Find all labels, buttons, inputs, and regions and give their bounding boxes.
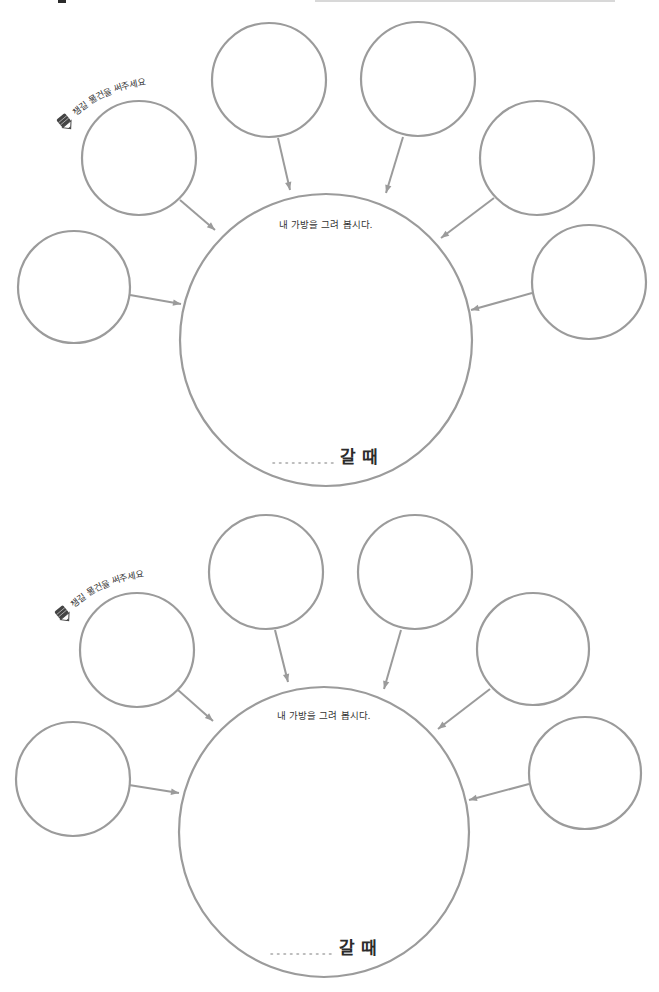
- item-top-left-arrow-line: [278, 138, 290, 190]
- arrow-head-icon: [171, 789, 179, 795]
- item-right-circle[interactable]: [529, 717, 641, 829]
- item-right-arrow-line: [471, 293, 532, 310]
- worksheet-canvas: 내 가방을 그려 봅시다.갈 때챙길 물건을 써주세요 내 가방을 그려 봅시다…: [0, 0, 659, 992]
- item-right-group: [469, 717, 641, 829]
- item-left-circle[interactable]: [16, 722, 130, 836]
- arrow-head-icon: [469, 795, 478, 801]
- item-top-right-circle[interactable]: [358, 515, 472, 629]
- arrow-head-icon: [385, 184, 391, 193]
- center-prompt: 내 가방을 그려 봅시다.: [279, 219, 372, 230]
- arrow-head-icon: [173, 299, 181, 305]
- cutoff-header-text: [315, 0, 615, 2]
- item-top-left-circle[interactable]: [209, 515, 323, 629]
- item-upper-right-circle[interactable]: [480, 101, 594, 215]
- item-upper-left-group: [80, 593, 213, 721]
- item-top-right-group: [361, 22, 475, 193]
- cutoff-header-mark: [58, 0, 66, 3]
- item-top-left-group: [209, 515, 323, 682]
- item-top-right-arrow-line: [386, 137, 403, 193]
- arrow-head-icon: [383, 680, 389, 689]
- item-upper-left-group: [82, 101, 215, 230]
- item-upper-right-arrow-line: [438, 689, 490, 729]
- bag-drawing-circle[interactable]: [180, 194, 472, 486]
- item-left-circle[interactable]: [18, 231, 130, 343]
- pencil-icon: [54, 605, 73, 624]
- item-right-arrow-line: [469, 784, 529, 800]
- item-top-right-circle[interactable]: [361, 22, 475, 136]
- item-upper-right-circle[interactable]: [477, 593, 589, 705]
- bag-drawing-circle[interactable]: [179, 687, 469, 977]
- item-upper-right-arrow-line: [441, 198, 494, 238]
- item-left-group: [18, 231, 181, 343]
- item-upper-right-group: [438, 593, 589, 729]
- item-top-left-arrow-line: [275, 630, 288, 682]
- item-top-left-group: [212, 23, 326, 190]
- item-upper-left-circle[interactable]: [80, 593, 194, 707]
- blank-suffix: 갈 때: [339, 938, 377, 958]
- worksheet-top: 내 가방을 그려 봅시다.갈 때챙길 물건을 써주세요: [18, 22, 646, 486]
- item-top-left-circle[interactable]: [212, 23, 326, 137]
- item-upper-left-circle[interactable]: [82, 101, 196, 215]
- item-upper-right-group: [441, 101, 594, 238]
- item-top-right-arrow-line: [384, 630, 401, 689]
- worksheet-bottom: 내 가방을 그려 봅시다.갈 때챙길 물건을 써주세요: [16, 515, 641, 977]
- item-right-circle[interactable]: [532, 225, 646, 339]
- pencil-icon: [56, 113, 75, 132]
- blank-suffix: 갈 때: [340, 447, 378, 467]
- item-top-right-group: [358, 515, 472, 689]
- center-prompt: 내 가방을 그려 봅시다.: [277, 710, 370, 721]
- item-right-group: [471, 225, 646, 339]
- item-left-group: [16, 722, 179, 836]
- arrow-head-icon: [471, 305, 480, 311]
